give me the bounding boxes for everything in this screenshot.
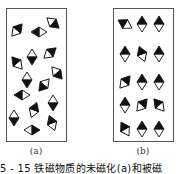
magnetic-domain-icon: [137, 16, 147, 32]
magnetic-domain-icon: [137, 121, 147, 137]
panel-b-magnetized: [114, 9, 174, 142]
magnetic-domain-icon: [22, 72, 32, 88]
magnetic-domain-icon: [154, 16, 164, 32]
figure-caption: 5 - 15 铁磁物质的未磁化(a)和被磁: [0, 160, 185, 174]
magnetic-domain-icon: [31, 27, 47, 37]
magnetic-domain-icon: [48, 64, 66, 83]
magnetic-domain-icon: [27, 101, 42, 119]
magnetic-domain-icon: [116, 73, 134, 92]
magnetic-domain-icon: [27, 49, 37, 65]
magnetic-domain-icon: [24, 125, 40, 135]
panel-a-unmagnetized: [7, 9, 67, 142]
magnetic-domain-icon: [133, 96, 151, 115]
magnetic-domain-icon: [35, 76, 53, 95]
magnetic-domain-icon: [135, 45, 150, 63]
magnetic-domain-icon: [137, 74, 147, 90]
magnetic-domain-icon: [45, 114, 60, 132]
magnetic-domain-icon: [41, 44, 60, 62]
magnetic-domain-icon: [117, 120, 134, 139]
magnetic-domain-icon: [8, 21, 26, 40]
magnetic-domain-icon: [44, 14, 63, 32]
magnetic-domain-icon: [48, 95, 58, 111]
magnetic-domain-icon: [154, 121, 164, 137]
magnetic-domain-icon: [8, 54, 26, 73]
magnetic-domain-icon: [120, 46, 130, 62]
magnetic-domain-icon: [9, 110, 19, 126]
magnetic-domain-icon: [150, 96, 168, 115]
magnetic-domain-icon: [154, 46, 164, 62]
panel-b-label: (b): [128, 146, 158, 156]
magnetic-domain-icon: [120, 97, 130, 113]
magnetic-domain-icon: [154, 74, 164, 90]
magnetic-domain-icon: [14, 90, 30, 100]
panel-a-label: (a): [21, 146, 51, 156]
magnetic-domain-icon: [116, 16, 135, 33]
